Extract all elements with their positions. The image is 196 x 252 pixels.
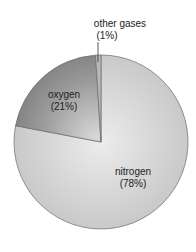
pie-slices	[14, 55, 188, 229]
label-nitrogen-pct: (78%)	[120, 178, 147, 189]
label-oxygen-pct: (21%)	[51, 101, 78, 112]
pie-chart: other gases (1%) oxygen (21%) nitrogen (…	[0, 0, 196, 252]
label-other-gases-pct: (1%)	[96, 30, 117, 41]
label-other-gases-name: other gases	[94, 18, 146, 29]
label-oxygen-name: oxygen	[48, 89, 80, 100]
label-nitrogen-name: nitrogen	[115, 166, 151, 177]
